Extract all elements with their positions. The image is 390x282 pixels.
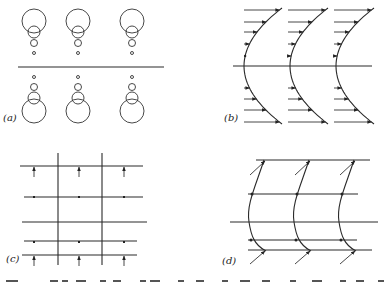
bubble-circle — [31, 40, 38, 47]
panel-a: (a) — [3, 9, 164, 123]
flow-dot — [341, 193, 344, 196]
flow-dot — [340, 239, 343, 242]
panel-a-label: (a) — [3, 112, 17, 123]
velocity-dot — [244, 55, 246, 57]
figure-canvas: (a) (b) (c) (d) — [0, 0, 390, 282]
bubble-circle — [72, 92, 84, 104]
bubble-circle — [126, 92, 138, 104]
bubble-circle — [33, 76, 36, 79]
panel-d-label: (d) — [222, 255, 236, 266]
bubble-circle — [66, 9, 90, 33]
bubble-circle — [28, 92, 40, 104]
bubble-circle — [120, 99, 144, 123]
oblique-arrow-top — [340, 161, 355, 175]
oblique-arrow-bottom — [250, 251, 265, 264]
flow-dot — [295, 239, 298, 242]
oblique-arrow-top — [295, 161, 310, 175]
flow-dot — [296, 193, 299, 196]
panel-d: (d) — [222, 160, 378, 266]
bubble-circle — [31, 84, 38, 91]
bubble-circle — [66, 99, 90, 123]
bubble-circle — [131, 76, 134, 79]
bubble-circle — [129, 40, 136, 47]
dot-marker — [78, 196, 80, 198]
flow-dot — [251, 193, 254, 196]
bubble-circle — [75, 84, 82, 91]
bubble-circle — [33, 52, 36, 55]
flow-dot — [250, 239, 253, 242]
bubble-circle — [77, 76, 80, 79]
bubble-circle — [131, 52, 134, 55]
bubble-circle — [22, 99, 46, 123]
oblique-arrow-bottom — [295, 251, 310, 264]
panel-c-label: (c) — [6, 253, 20, 264]
panel-b-label: (b) — [224, 112, 238, 123]
panel-b: (b) — [224, 8, 374, 124]
dot-marker — [33, 241, 35, 243]
bubble-circle — [120, 9, 144, 33]
dot-marker — [123, 241, 125, 243]
bubble-circle — [77, 52, 80, 55]
dot-marker — [33, 196, 35, 198]
dot-marker — [123, 196, 125, 198]
oblique-arrow-top — [250, 161, 265, 175]
bubble-circle — [22, 9, 46, 33]
panel-c: (c) — [6, 153, 147, 266]
bubble-circle — [75, 40, 82, 47]
dot-marker — [78, 241, 80, 243]
oblique-arrow-bottom — [340, 251, 355, 264]
bubble-circle — [129, 84, 136, 91]
